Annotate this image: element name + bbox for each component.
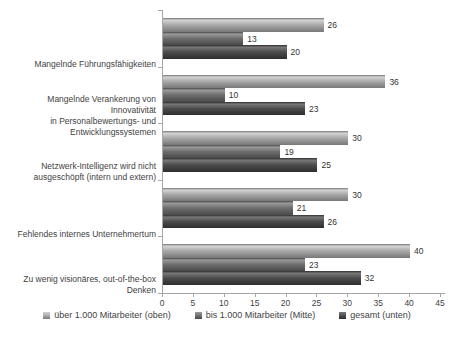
x-tick	[286, 294, 287, 297]
bar	[163, 102, 305, 116]
x-tick-label: 15	[250, 298, 259, 308]
value-label: 32	[365, 274, 374, 283]
bar	[163, 18, 324, 32]
x-tick-label: 40	[404, 298, 413, 308]
category-label: Fehlendes internes Unternehmertum	[4, 229, 156, 240]
x-tick	[162, 294, 163, 297]
x-tick-label: 25	[312, 298, 321, 308]
category-label: Mangelnde Führungsfähigkeiten	[4, 59, 156, 70]
value-label: 26	[328, 218, 337, 227]
legend-marker-icon	[339, 312, 346, 319]
bar	[163, 45, 287, 59]
value-label: 25	[321, 161, 330, 170]
bar-chart: 261320361023301925302126402332 Mangelnde…	[0, 0, 454, 337]
category-label-line: ausgeschöpft (intern und extern)	[4, 172, 156, 183]
x-tick	[440, 294, 441, 297]
y-tick	[158, 236, 162, 237]
value-label: 30	[352, 134, 361, 143]
value-label: 21	[297, 204, 306, 213]
value-label: 30	[352, 191, 361, 200]
x-tick-label: 5	[191, 298, 196, 308]
bar	[163, 271, 361, 285]
category-label-line: Netzwerk-Intelligenz wird nicht	[4, 161, 156, 172]
value-label: 40	[414, 247, 423, 256]
y-tick	[158, 180, 162, 181]
value-label: 20	[291, 48, 300, 57]
plot-area: 261320361023301925302126402332 Mangelnde…	[0, 0, 454, 337]
x-tick-label: 10	[219, 298, 228, 308]
x-tick	[316, 294, 317, 297]
value-label: 23	[309, 105, 318, 114]
legend-item: bis 1.000 Mitarbeiter (Mitte)	[195, 310, 316, 320]
bar	[163, 145, 280, 159]
category-label-line: Zu wenig visionäres, out-of-the-box	[4, 274, 156, 285]
value-label: 10	[229, 91, 238, 100]
category-label-line: in Personalbewertungs- und	[4, 116, 156, 127]
y-tick	[158, 67, 162, 68]
legend-label: gesamt (unten)	[350, 310, 411, 320]
y-tick	[158, 123, 162, 124]
x-tick	[409, 294, 410, 297]
value-label: 19	[284, 148, 293, 157]
y-tick	[158, 10, 162, 11]
bar	[163, 215, 324, 229]
value-label: 36	[389, 78, 398, 87]
x-tick-label: 0	[160, 298, 165, 308]
x-tick	[255, 294, 256, 297]
legend-marker-icon	[43, 312, 50, 319]
x-tick	[347, 294, 348, 297]
x-tick-label: 45	[435, 298, 444, 308]
bar	[163, 188, 348, 202]
category-label-line: Mangelnde Führungsfähigkeiten	[4, 59, 156, 70]
x-tick-label: 20	[281, 298, 290, 308]
category-label-line: Entwicklungssystemen	[4, 127, 156, 138]
legend: über 1.000 Mitarbeiter (oben)bis 1.000 M…	[0, 310, 454, 320]
value-label: 13	[247, 35, 256, 44]
legend-label: bis 1.000 Mitarbeiter (Mitte)	[206, 310, 316, 320]
bar	[163, 32, 243, 46]
legend-label: über 1.000 Mitarbeiter (oben)	[54, 310, 171, 320]
category-label-line: Denken	[4, 285, 156, 296]
category-label: Netzwerk-Intelligenz wird nichtausgeschö…	[4, 161, 156, 183]
value-label: 23	[309, 261, 318, 270]
x-tick-label: 30	[343, 298, 352, 308]
value-label: 26	[328, 21, 337, 30]
x-tick	[378, 294, 379, 297]
category-label: Mangelnde Verankerung von Innovativitäti…	[4, 94, 156, 138]
category-label-line: Fehlendes internes Unternehmertum	[4, 229, 156, 240]
bar	[163, 131, 348, 145]
bar	[163, 201, 293, 215]
x-tick-label: 35	[373, 298, 382, 308]
x-axis-line	[162, 293, 445, 294]
bar	[163, 88, 225, 102]
bar	[163, 158, 317, 172]
x-tick	[193, 294, 194, 297]
legend-item: über 1.000 Mitarbeiter (oben)	[43, 310, 171, 320]
category-label: Zu wenig visionäres, out-of-the-boxDenke…	[4, 274, 156, 296]
legend-item: gesamt (unten)	[339, 310, 411, 320]
legend-marker-icon	[195, 312, 202, 319]
category-label-line: Mangelnde Verankerung von Innovativität	[4, 94, 156, 116]
bar	[163, 75, 385, 89]
x-tick	[224, 294, 225, 297]
bar	[163, 258, 305, 272]
bar	[163, 244, 410, 258]
